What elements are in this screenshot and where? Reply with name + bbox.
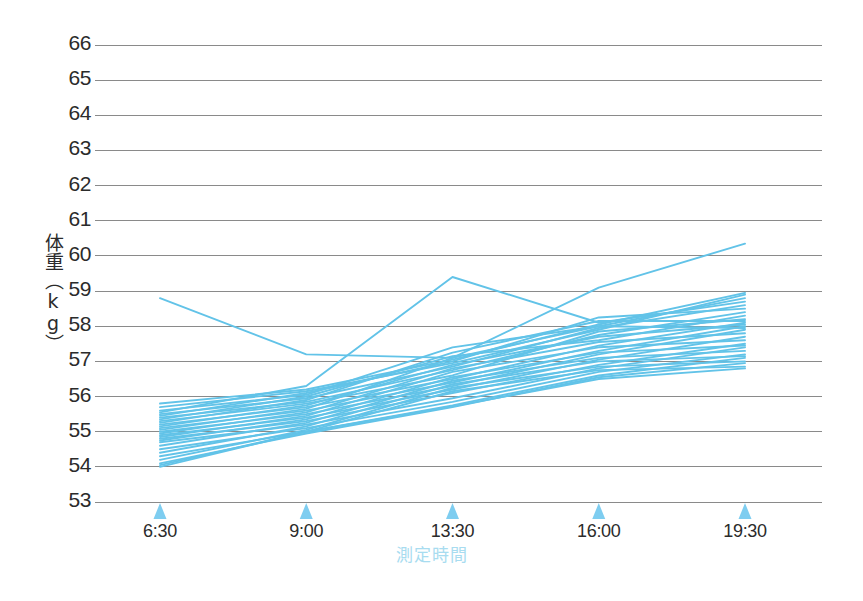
y-tick-label: 53 [57,488,91,512]
x-tick-label: 16:00 [554,521,644,542]
x-tick-label: 9:00 [261,521,351,542]
y-tick-label: 62 [57,172,91,196]
y-tick-label: 66 [57,31,91,55]
x-tick-marker [154,503,167,519]
x-tick-label: 6:30 [115,521,205,542]
y-tick-label: 56 [57,383,91,407]
x-tick-marker [739,503,752,519]
y-tick-label: 61 [57,207,91,231]
x-tick-marker [446,503,459,519]
x-tick-label: 19:30 [700,521,790,542]
x-tick-marker [300,503,313,519]
series-line [160,309,745,416]
y-tick-label: 63 [57,136,91,160]
data-series-lines [160,244,745,467]
x-axis-tick-markers [154,503,752,519]
y-axis-title: 体重（kg） [36,233,62,353]
y-tick-label: 65 [57,66,91,90]
chart-plot-area [0,0,863,601]
x-tick-label: 13:30 [408,521,498,542]
x-axis-title: 測定時間 [0,541,863,566]
weight-by-time-line-chart: 5354555657585960616263646566 6:309:0013:… [0,0,863,601]
x-tick-marker [592,503,605,519]
y-tick-label: 54 [57,453,91,477]
y-tick-label: 64 [57,101,91,125]
y-tick-label: 55 [57,418,91,442]
